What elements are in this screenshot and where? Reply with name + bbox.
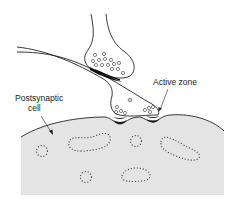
active-zone-label: Active zone — [153, 77, 197, 87]
postsynaptic-label-line2: cell — [28, 103, 41, 113]
mitochondrion-marker-dot — [129, 99, 130, 100]
active-zone-arrowhead — [158, 107, 162, 112]
active-zone-arrow — [160, 89, 168, 110]
active-zone-1 — [113, 117, 127, 119]
synapse-diagram: Active zone Postsynaptic cell — [0, 0, 235, 205]
postsynaptic-cell — [21, 115, 224, 195]
active-zone-2 — [146, 116, 160, 118]
postsynaptic-label-line1: Postsynaptic — [15, 93, 64, 103]
